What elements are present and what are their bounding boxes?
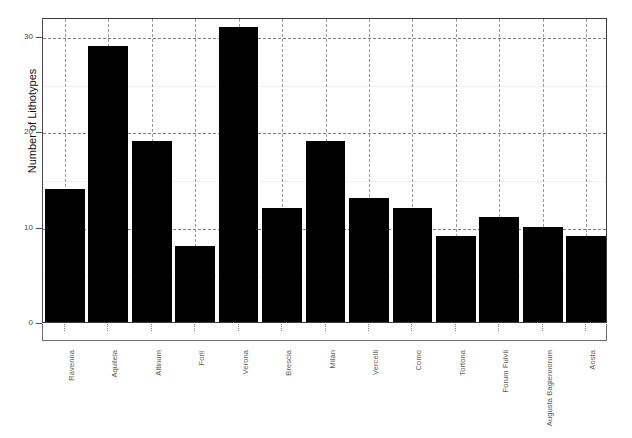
bar <box>262 208 302 322</box>
bar <box>479 217 519 322</box>
y-axis-tick-label: 30 <box>24 32 33 41</box>
bar <box>566 236 606 322</box>
bar <box>523 227 563 322</box>
x-axis-tick-label: Verona <box>241 350 250 374</box>
bar <box>132 141 172 322</box>
x-axis-tick <box>151 324 152 331</box>
x-axis-tick <box>281 324 282 331</box>
bar <box>219 27 259 322</box>
x-axis-tick <box>368 324 369 331</box>
bar-chart-figure: Number of Lithotypes 0102030 RavennaAqui… <box>0 0 632 438</box>
x-axis-tick <box>542 324 543 331</box>
x-axis-tick-label: Ravenna <box>67 350 76 381</box>
x-axis-tick-label: Aosta <box>588 350 597 370</box>
x-axis-tick <box>455 324 456 331</box>
bar <box>349 198 389 322</box>
y-axis-tick <box>36 228 42 229</box>
x-axis-tick-label: Altinum <box>154 350 163 376</box>
x-axis-tick <box>325 324 326 331</box>
x-axis-tick <box>107 324 108 331</box>
bar <box>175 246 215 322</box>
x-axis-tick <box>411 324 412 331</box>
bar <box>436 236 476 322</box>
x-axis-tick <box>498 324 499 331</box>
bar <box>45 189 85 322</box>
x-axis-tick-label: Augusta Bagiennorum <box>545 350 554 426</box>
x-axis-tick <box>194 324 195 331</box>
y-axis-tick <box>36 37 42 38</box>
x-axis-tick-label: Como <box>414 350 423 370</box>
x-axis-tick-label: Aquileia <box>110 350 119 378</box>
y-axis-line <box>42 18 43 323</box>
gridline-major <box>43 38 606 39</box>
y-axis-tick <box>36 132 42 133</box>
x-axis-tick-label: Forum Fulvii <box>501 350 510 392</box>
x-axis-tick-label: Brescia <box>284 350 293 376</box>
bar <box>393 208 433 322</box>
x-axis-tick-label: Vercelli <box>371 350 380 375</box>
bar <box>88 46 128 322</box>
x-axis-tick <box>64 324 65 331</box>
y-axis-title: Number of Lithotypes <box>26 41 38 201</box>
x-axis-tick <box>585 324 586 331</box>
y-axis-tick-label: 20 <box>24 127 33 136</box>
plot-area <box>42 18 607 323</box>
bar <box>306 141 346 322</box>
x-axis-tick-label: Milan <box>328 350 337 368</box>
y-axis-tick-label: 10 <box>24 223 33 232</box>
y-axis-tick-label: 0 <box>29 318 33 327</box>
x-axis-tick-label: Forlì <box>197 350 206 366</box>
x-axis-tick <box>238 324 239 331</box>
x-axis-tick-label: Tortona <box>458 350 467 376</box>
